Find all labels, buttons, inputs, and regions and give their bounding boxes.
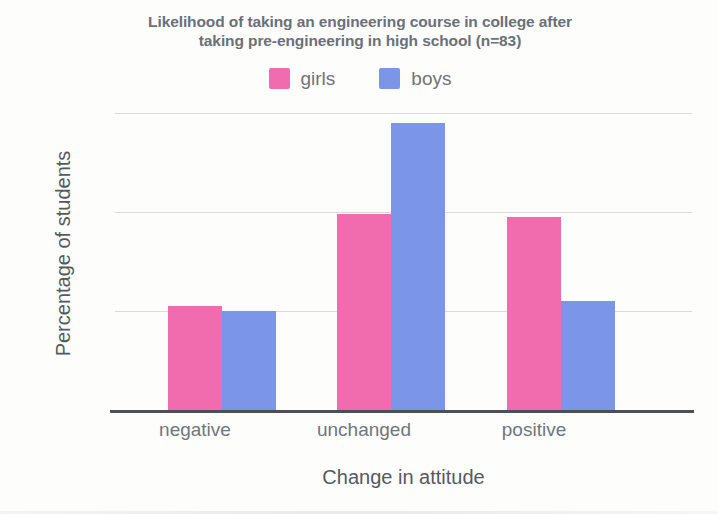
chart-title-line-1: Likelihood of taking an engineering cour… (60, 12, 660, 31)
legend-label-boys: boys (411, 68, 451, 89)
bar-positive-girls[interactable] (507, 217, 561, 410)
x-tick-negative: negative (100, 419, 290, 441)
legend-item-girls[interactable]: girls (269, 68, 336, 89)
y-axis-label: Percentage of students (52, 44, 75, 464)
plot-area: Percentage of students 60% 40% 20% 0% ne… (115, 113, 692, 410)
bar-unchanged-boys[interactable] (391, 123, 445, 410)
chart-title: Likelihood of taking an engineering cour… (60, 12, 660, 50)
legend-label-girls: girls (301, 68, 336, 89)
x-axis-baseline (110, 410, 694, 413)
bar-unchanged-girls[interactable] (337, 214, 391, 410)
bar-positive-boys[interactable] (561, 301, 615, 410)
bar-negative-girls[interactable] (168, 306, 222, 410)
bar-group-unchanged (337, 113, 445, 410)
bar-group-positive (507, 113, 615, 410)
chart-legend: girls boys (60, 68, 660, 89)
x-axis-label: Change in attitude (115, 466, 692, 489)
x-tick-positive: positive (439, 419, 629, 441)
bar-group-negative (168, 113, 276, 410)
bar-negative-boys[interactable] (222, 311, 276, 410)
legend-swatch-boys (379, 68, 400, 89)
chart-title-line-2: taking pre-engineering in high school (n… (60, 31, 660, 50)
bar-chart-figure: Likelihood of taking an engineering cour… (0, 0, 718, 514)
legend-swatch-girls (269, 68, 290, 89)
x-tick-unchanged: unchanged (269, 419, 459, 441)
legend-item-boys[interactable]: boys (379, 68, 451, 89)
